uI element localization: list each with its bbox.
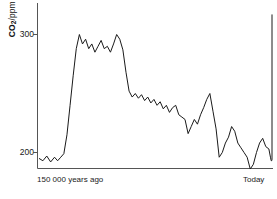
co2-chart-figure: CO2/ppm 300 200 150 000 years ago Today <box>0 0 277 199</box>
plot-area <box>0 0 277 199</box>
co2-data-line <box>39 14 272 169</box>
